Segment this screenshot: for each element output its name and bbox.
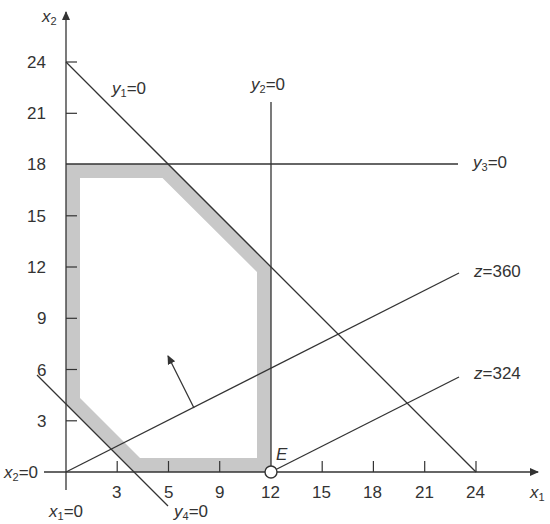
y-axis-label: x2: [42, 8, 57, 27]
y-tick-label: 12: [27, 259, 46, 276]
y-tick-label: 3: [37, 413, 46, 430]
label-y3: y3=0: [473, 154, 507, 173]
y-tick-label: 24: [27, 54, 46, 71]
feasible-region-band: [66, 164, 271, 472]
label-y2: y2=0: [251, 76, 285, 95]
y-tick-label: 9: [37, 310, 46, 327]
label-x1-zero: x1=0: [49, 503, 83, 522]
y-tick-label: 21: [27, 105, 46, 122]
lp-diagram: x2 x1 3 6 9 12 15 18 21 24 3 5 9 12 15 1…: [0, 0, 550, 524]
label-z360: z=360: [474, 263, 521, 280]
y-tick-label: 18: [27, 156, 46, 173]
x-tick-label: 15: [312, 484, 331, 501]
line-y4: [37, 375, 168, 506]
x-tick-label: 9: [215, 484, 224, 501]
x-tick-label: 24: [466, 484, 485, 501]
x-tick-label: 12: [261, 484, 280, 501]
x-tick-label: 18: [363, 484, 382, 501]
label-z324: z=324: [474, 365, 521, 382]
x-tick-label: 3: [112, 484, 121, 501]
x-tick-label: 5: [164, 484, 173, 501]
line-z324: [275, 377, 459, 470]
point-e-label: E: [276, 446, 287, 463]
x-tick-label: 21: [415, 484, 434, 501]
point-e-marker: [265, 466, 277, 478]
label-x2-zero: x2=0: [4, 464, 38, 483]
label-y4: y4=0: [174, 503, 208, 522]
label-y1: y1=0: [112, 80, 146, 99]
y-tick-label: 6: [37, 362, 46, 379]
improvement-direction-arrow: [168, 356, 194, 408]
y-tick-label: 15: [27, 208, 46, 225]
x-axis-label: x1: [530, 484, 545, 503]
